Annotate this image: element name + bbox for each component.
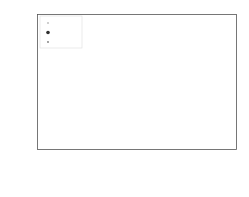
legend-marker-linear-icon xyxy=(47,41,49,43)
legend-marker-sin-icon xyxy=(47,22,49,24)
chart xyxy=(0,0,249,170)
legend-marker-cos-icon xyxy=(46,31,50,35)
legend xyxy=(40,16,82,48)
